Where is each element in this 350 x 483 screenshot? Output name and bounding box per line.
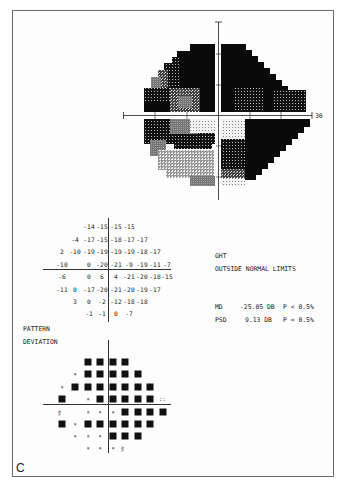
- p05-square-icon: [72, 384, 79, 391]
- p05-square-icon: [85, 371, 92, 378]
- p05-square-icon: [135, 384, 142, 391]
- psd-p-value: P < 0.5%: [283, 316, 314, 324]
- psd-value: 9.13 DB: [245, 316, 272, 324]
- p05-square-icon: [85, 421, 92, 428]
- normal-dot-icon: [99, 411, 101, 413]
- p05-square-icon: [122, 371, 129, 378]
- normal-dot-icon: [87, 435, 89, 437]
- p05-square-icon: [122, 409, 129, 416]
- p05-square-icon: [59, 421, 66, 428]
- p05-square-icon: [122, 421, 129, 428]
- p05-square-icon: [97, 371, 104, 378]
- td-value: -15: [121, 223, 137, 230]
- td-horizontal-axis: [43, 269, 171, 270]
- td-value: -15: [159, 273, 175, 280]
- p05-square-icon: [147, 396, 154, 403]
- td-value: -10: [54, 261, 70, 268]
- greyscale-map: [0, 0, 350, 200]
- md-p-value: P < 0.5%: [283, 303, 314, 311]
- p05-square-icon: [122, 433, 129, 440]
- p05-square-icon: [110, 396, 117, 403]
- p05-square-icon: [110, 384, 117, 391]
- normal-dot-icon: [112, 447, 114, 449]
- pattern-title-2: DEVIATION: [23, 338, 58, 346]
- p05-square-icon: [135, 421, 142, 428]
- td-value: -7: [159, 261, 175, 268]
- td-value: -17: [134, 236, 150, 243]
- p05-square-icon: [122, 396, 129, 403]
- p05-square-icon: [97, 359, 104, 366]
- td-value: -6: [54, 273, 70, 280]
- lower-right-quadrant: [221, 119, 310, 186]
- psd-label: PSD: [215, 316, 227, 324]
- pd-horizontal-axis: [43, 404, 171, 405]
- normal-dot-icon: [74, 435, 76, 437]
- p05-square-icon: [147, 421, 154, 428]
- p2-symbol-icon: ﾀ: [121, 444, 124, 453]
- p05-square-icon: [160, 409, 167, 416]
- p05-square-icon: [135, 409, 142, 416]
- p2-symbol-icon: ﾀ: [58, 408, 61, 417]
- md-label: MD: [215, 303, 223, 311]
- p05-square-icon: [110, 371, 117, 378]
- upper-right-quadrant: [221, 44, 306, 112]
- normal-dot-icon: [99, 435, 101, 437]
- td-value: -17: [147, 286, 163, 293]
- normal-dot-icon: [87, 398, 89, 400]
- normal-dot-icon: [74, 373, 76, 375]
- md-value: -25.05 DB: [240, 303, 275, 311]
- ght-result: OUTSIDE NORMAL LIMITS: [215, 265, 296, 273]
- td-value: -18: [134, 298, 150, 305]
- normal-dot-icon: [87, 411, 89, 413]
- axis-label-30: 30: [315, 112, 323, 120]
- p05-square-icon: [135, 396, 142, 403]
- td-value: -7: [121, 310, 137, 317]
- p05-square-icon: [135, 371, 142, 378]
- p05-square-icon: [85, 384, 92, 391]
- p05-square-icon: [110, 421, 117, 428]
- td-value: -17: [147, 248, 163, 255]
- p05-square-icon: [122, 359, 129, 366]
- lower-left-quadrant: [144, 119, 215, 186]
- upper-left-quadrant: [144, 44, 215, 112]
- normal-dot-icon: [99, 447, 101, 449]
- p05-square-icon: [97, 396, 104, 403]
- p05-square-icon: [122, 384, 129, 391]
- p05-square-icon: [110, 359, 117, 366]
- p05-square-icon: [110, 433, 117, 440]
- p05-square-icon: [97, 384, 104, 391]
- p05-square-icon: [147, 384, 154, 391]
- p05-square-icon: [85, 359, 92, 366]
- p05-square-icon: [59, 396, 66, 403]
- normal-dot-icon: [61, 386, 63, 388]
- p05-square-icon: [97, 421, 104, 428]
- p05-square-icon: [135, 433, 142, 440]
- td-vertical-axis: [108, 218, 109, 322]
- ght-label: GHT: [215, 252, 227, 260]
- panel-label: C: [16, 461, 25, 475]
- p5-symbol-icon: ::: [159, 395, 166, 402]
- pd-vertical-axis: [108, 340, 109, 453]
- normal-dot-icon: [112, 411, 114, 413]
- pattern-title-1: PATTERN: [23, 325, 50, 333]
- normal-dot-icon: [74, 423, 76, 425]
- p05-square-icon: [147, 409, 154, 416]
- normal-dot-icon: [87, 447, 89, 449]
